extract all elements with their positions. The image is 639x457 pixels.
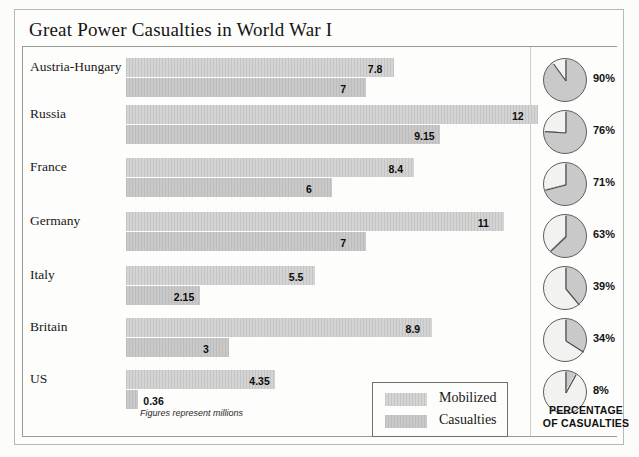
bar-mobilized <box>126 105 538 124</box>
bar-value-casualties: 3 <box>203 343 209 355</box>
country-label: Austria-Hungary <box>30 59 121 75</box>
bar-value-mobilized: 8.4 <box>388 163 403 175</box>
bar-value-mobilized: 7.8 <box>368 63 383 75</box>
bar-value-casualties: 7 <box>340 237 346 249</box>
pie-chart: 90% <box>543 58 587 102</box>
pie-slice-divider <box>544 215 588 259</box>
legend: Mobilized Casualties <box>372 382 508 437</box>
country-label: Russia <box>30 106 66 122</box>
pie-slice-graphic <box>543 110 587 154</box>
pie-slice-divider <box>544 267 588 311</box>
chart-page: Great Power Casualties in World War I Au… <box>0 0 639 457</box>
pie-percent-label: 34% <box>593 332 615 344</box>
bar-value-casualties: 2.15 <box>174 291 194 303</box>
pie-heading-line1: PERCENTAGE <box>540 404 632 417</box>
pie-slice-divider <box>544 111 588 155</box>
legend-swatch-casualties <box>385 415 427 428</box>
bar-casualties <box>126 232 366 251</box>
bottom-horizontal-rule <box>22 436 617 437</box>
footnote: Figures represent millions <box>140 408 243 418</box>
bar-value-casualties: 9.15 <box>414 130 434 142</box>
bar-mobilized <box>126 318 432 337</box>
pie-percent-label: 39% <box>593 280 615 292</box>
title-rule <box>22 46 617 47</box>
pie-percent-label: 71% <box>593 176 615 188</box>
pie-slice-divider <box>544 319 588 363</box>
bar-mobilized <box>126 212 504 231</box>
bar-casualties <box>126 390 138 409</box>
country-label: US <box>30 371 47 387</box>
pie-slice-graphic <box>543 318 587 362</box>
bar-mobilized <box>126 266 315 285</box>
pie-column-heading: PERCENTAGE OF CASUALTIES <box>540 404 632 429</box>
legend-swatch-mobilized <box>385 393 427 406</box>
bar-casualties <box>126 338 229 357</box>
bar-value-mobilized: 8.9 <box>406 323 421 335</box>
pie-slice-graphic <box>543 162 587 206</box>
bar-mobilized <box>126 158 414 177</box>
bar-value-casualties: 6 <box>306 183 312 195</box>
pie-percent-label: 76% <box>593 124 615 136</box>
bar-value-mobilized: 4.35 <box>249 375 269 387</box>
bar-casualties <box>126 178 332 197</box>
pie-percent-label: 63% <box>593 228 615 240</box>
pie-slice-graphic <box>543 266 587 310</box>
bar-casualties <box>126 125 440 144</box>
legend-label-mobilized: Mobilized <box>439 390 497 406</box>
bar-mobilized <box>126 58 394 77</box>
pie-slice-graphic <box>543 214 587 258</box>
bar-value-mobilized: 11 <box>478 217 489 229</box>
pie-slice-divider <box>544 163 588 207</box>
pie-chart: 39% <box>543 266 587 310</box>
country-label: Britain <box>30 319 68 335</box>
pie-slice-graphic <box>543 58 587 102</box>
left-vertical-rule <box>22 47 23 436</box>
country-label: Italy <box>30 267 55 283</box>
country-label: France <box>30 159 67 175</box>
pie-percent-label: 8% <box>593 384 609 396</box>
chart-title: Great Power Casualties in World War I <box>29 19 332 41</box>
pie-chart: 71% <box>543 162 587 206</box>
pie-heading-line2: OF CASUALTIES <box>540 417 632 430</box>
bar-casualties <box>126 78 366 97</box>
country-label: Germany <box>30 213 80 229</box>
bar-value-mobilized: 12 <box>512 110 524 122</box>
pie-chart: 34% <box>543 318 587 362</box>
pie-chart: 63% <box>543 214 587 258</box>
bar-value-casualties: 0.36 <box>143 395 163 407</box>
pie-percent-label: 90% <box>593 72 615 84</box>
legend-label-casualties: Casualties <box>439 412 497 428</box>
bar-value-mobilized: 5.5 <box>289 271 304 283</box>
bar-value-casualties: 7 <box>340 83 346 95</box>
pie-chart: 76% <box>543 110 587 154</box>
pie-slice-divider <box>544 59 588 103</box>
